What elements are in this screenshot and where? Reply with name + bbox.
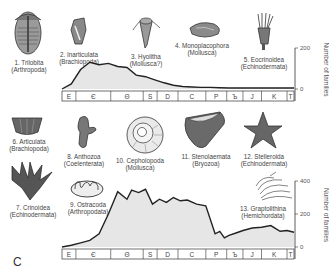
chart-1-period-label: S — [148, 93, 153, 100]
chart-1-area — [62, 62, 294, 89]
chart-2-period-label: T — [289, 251, 293, 258]
chart-2-period-label: E — [67, 251, 72, 258]
chart-1-period-label: J — [251, 93, 254, 100]
chart-1-period-label: C — [190, 93, 195, 100]
chart-2-period-label: Ъ — [232, 251, 237, 258]
chart-2-period-label: P — [214, 251, 218, 258]
chart-2-period-label: S — [148, 251, 153, 258]
chart-1-period-label: Θ — [124, 93, 129, 100]
chart-1-y-tick-label: 200 — [300, 45, 311, 51]
chart-1-period-label: K — [272, 93, 277, 100]
chart-1-y-tick-label: 0 — [300, 86, 304, 92]
chart-2-period-label: Є — [91, 251, 96, 258]
chart-2-period-label: C — [190, 251, 195, 258]
chart-2-period-label: Θ — [124, 251, 129, 258]
chart-1-period-label: T — [289, 93, 293, 100]
chart-1-period-label: D — [165, 93, 170, 100]
chart-2-y-tick-label: 200 — [300, 211, 311, 217]
chart-1-period-label: Є — [91, 93, 96, 100]
diversity-charts: EЄΘSDCPЪJKT0200Number of familiesEЄΘSDCP… — [0, 0, 329, 276]
chart-2-y-tick-label: 400 — [300, 178, 311, 184]
chart-2-y-tick-label: 0 — [300, 244, 304, 250]
chart-2-y-axis-label: Number of families — [323, 188, 329, 243]
chart-2-area — [62, 189, 294, 247]
chart-2-period-label: J — [251, 251, 254, 258]
chart-1-y-axis-label: Number of families — [323, 42, 329, 97]
chart-1-period-label: Ъ — [232, 93, 237, 100]
chart-2-period-label: K — [272, 251, 277, 258]
chart-1-period-label: E — [67, 93, 72, 100]
chart-1-period-label: P — [214, 93, 218, 100]
chart-2-period-label: D — [165, 251, 170, 258]
